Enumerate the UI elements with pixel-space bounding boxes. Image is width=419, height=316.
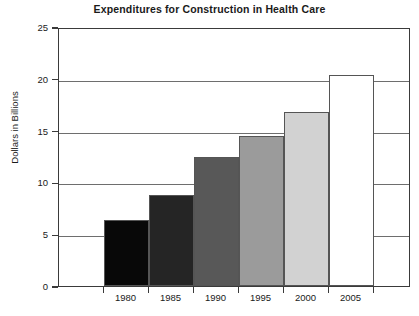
x-tick-mark-1980 xyxy=(103,287,104,293)
bar-2000 xyxy=(284,112,329,286)
y-tick-label-20: 20 xyxy=(18,75,48,85)
bar-2005 xyxy=(329,75,374,286)
y-tick-label-15: 15 xyxy=(18,127,48,137)
x-tick-label-2005: 2005 xyxy=(321,293,381,303)
x-tick-mark-2000 xyxy=(283,287,284,293)
x-tick-mark-1995 xyxy=(238,287,239,293)
y-tick-label-25: 25 xyxy=(18,23,48,33)
chart-title: Expenditures for Construction in Health … xyxy=(0,3,419,15)
y-tick-label-10: 10 xyxy=(18,178,48,188)
x-tick-mark-1985 xyxy=(148,287,149,293)
bar-1995 xyxy=(239,136,284,286)
bar-1980 xyxy=(104,220,149,286)
bar-1990 xyxy=(194,157,239,287)
y-tick-label-0: 0 xyxy=(18,282,48,292)
x-tick-mark-end xyxy=(373,287,374,293)
bar-1985 xyxy=(149,195,194,286)
x-tick-mark-1990 xyxy=(193,287,194,293)
y-tick-label-5: 5 xyxy=(18,230,48,240)
plot-area xyxy=(58,28,410,287)
x-tick-mark-2005 xyxy=(328,287,329,293)
bar-chart-figure: Expenditures for Construction in Health … xyxy=(0,0,419,316)
